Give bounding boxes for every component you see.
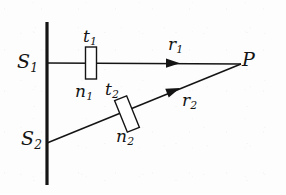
ray-1-line [47, 63, 241, 64]
label-source-1-base: S [17, 50, 30, 72]
label-thickness-1-base: t [83, 26, 90, 46]
diagram-canvas [0, 0, 286, 195]
slab-1-rect [86, 47, 97, 79]
label-source-2-base: S [21, 127, 34, 149]
label-point-p-base: P [242, 48, 255, 70]
label-source-1: S1 [17, 52, 38, 71]
label-ray-2-base: r [182, 90, 190, 110]
label-source-2: S2 [21, 129, 42, 148]
label-source-1-sub: 1 [30, 61, 38, 75]
label-ray-1-sub: 1 [176, 43, 183, 56]
label-thickness-1-sub: 1 [90, 35, 97, 48]
label-index-2-base: n [116, 126, 127, 146]
label-thickness-2-sub: 2 [112, 88, 119, 101]
label-thickness-1: t1 [83, 28, 97, 45]
label-point-p: P [242, 50, 255, 69]
label-index-2: n2 [116, 128, 134, 145]
ray-2-arrowhead [165, 84, 182, 98]
label-ray-2-sub: 2 [190, 99, 197, 112]
label-thickness-2-base: t [105, 79, 112, 99]
label-index-2-sub: 2 [127, 135, 134, 148]
label-index-1-base: n [75, 81, 86, 101]
label-index-1: n1 [75, 83, 93, 100]
label-ray-1: r1 [168, 36, 183, 53]
label-ray-1-base: r [168, 34, 176, 54]
ray-1-arrowhead [166, 58, 180, 67]
label-source-2-sub: 2 [34, 138, 42, 152]
optics-ray-diagram-figure: S1 S2 t1 t2 n1 n2 r1 r2 P [0, 0, 286, 195]
label-index-1-sub: 1 [86, 90, 93, 103]
label-thickness-2: t2 [105, 81, 119, 98]
label-ray-2: r2 [182, 92, 197, 109]
ray-2-line [47, 64, 241, 143]
